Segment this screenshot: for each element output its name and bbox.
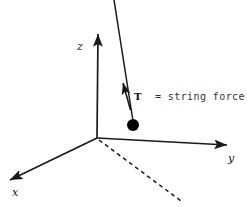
dashed-projection-line (99, 140, 181, 201)
coordinate-system-diagram: z y x T = string force (0, 0, 247, 207)
y-axis-label: y (227, 152, 235, 165)
legend-string-force: = string force (155, 91, 245, 102)
pendulum-string (114, 0, 133, 121)
z-axis (97, 34, 98, 138)
tension-vector-label: T (134, 91, 142, 102)
x-axis (10, 138, 97, 180)
y-axis (97, 138, 227, 145)
z-axis-label: z (76, 40, 83, 53)
x-axis-label: x (12, 186, 19, 199)
figure-canvas: z y x T = string force (0, 0, 247, 207)
pendulum-bob (127, 119, 139, 131)
